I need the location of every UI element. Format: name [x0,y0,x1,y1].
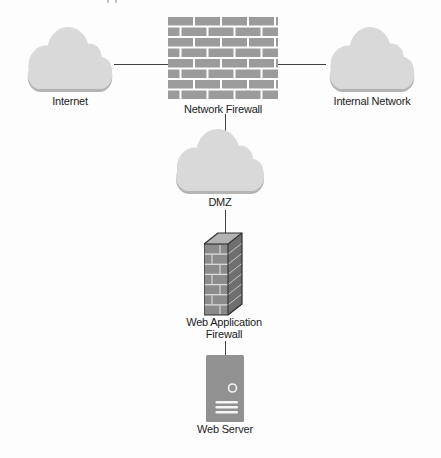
network-firewall-label: Network Firewall [153,103,293,115]
waf-label: Web Application Firewall [164,316,284,340]
waf-label-line2: Firewall [164,328,284,340]
connector-firewall-to-internal-network [277,64,326,65]
brick-tower-icon [204,232,244,317]
cloud-icon [22,26,118,94]
internal-network-label: Internal Network [324,95,420,107]
internet-label: Internet [20,95,120,107]
cropped-text-artifact [115,0,117,3]
cropped-text-artifact [107,0,109,3]
web-server-label: Web Server [175,423,275,435]
cloud-icon [324,26,420,94]
cloud-icon [170,128,270,196]
connector-internet-to-firewall [114,64,169,65]
server-vents-icon [216,401,239,413]
brick-wall-icon [168,17,278,100]
connector-dmz-to-waf [225,210,226,234]
dmz-label: DMZ [170,196,270,208]
server-icon [206,355,244,422]
waf-label-line1: Web Application [164,316,284,328]
network-diagram: Internet Network Firewall Internal Netwo… [0,0,441,458]
connector-waf-to-webserver [225,341,226,356]
